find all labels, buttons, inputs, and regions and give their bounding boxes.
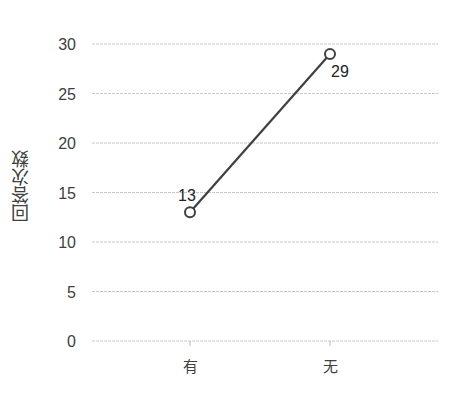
series-line <box>190 54 330 212</box>
data-series: 1329 <box>178 49 349 217</box>
y-tick-label: 30 <box>58 36 76 53</box>
y-tick-label: 10 <box>58 234 76 251</box>
data-point-marker <box>325 49 335 59</box>
y-tick-label: 25 <box>58 86 76 103</box>
y-axis-title: 回答次数 <box>12 150 32 222</box>
data-point-marker <box>185 207 195 217</box>
x-category-label: 无 <box>323 358 338 376</box>
data-label: 13 <box>178 187 196 204</box>
chart-canvas: 051015202530 有无 1329 <box>0 0 471 394</box>
y-tick-label: 0 <box>67 333 76 350</box>
y-axis-ticks: 051015202530 <box>58 36 76 350</box>
y-tick-label: 20 <box>58 135 76 152</box>
y-tick-label: 5 <box>67 284 76 301</box>
x-category-label: 有 <box>183 358 198 376</box>
y-tick-label: 15 <box>58 185 76 202</box>
x-axis-categories: 有无 <box>183 341 338 376</box>
data-label: 29 <box>331 63 349 80</box>
gridlines <box>92 44 438 341</box>
